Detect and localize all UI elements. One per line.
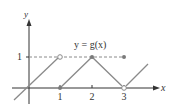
function-graph: y x 1 1 2 3 y = g(x) [0,0,172,108]
function-label: y = g(x) [74,39,106,51]
graph-canvas: y x 1 1 2 3 y = g(x) [0,0,172,108]
open-point-1-1 [58,55,63,60]
x-tick-label-1: 1 [58,91,63,102]
x-axis-arrow-icon [153,86,160,91]
x-axis-label: x [160,82,166,93]
open-point-3-0 [122,86,127,91]
y-axis-label: y [23,9,28,19]
y-tick-label-1: 1 [17,51,22,62]
curve-segment-3 [126,64,148,86]
x-tick-label-3: 3 [122,91,127,102]
closed-point-1-0 [58,86,62,90]
y-axis-arrow-icon [27,19,32,26]
closed-point-3-1 [122,55,126,59]
x-tick-label-2: 2 [90,91,95,102]
curve-segment-2 [60,57,122,88]
curve-segment-1 [14,58,58,100]
closed-point-2-1 [90,55,94,59]
